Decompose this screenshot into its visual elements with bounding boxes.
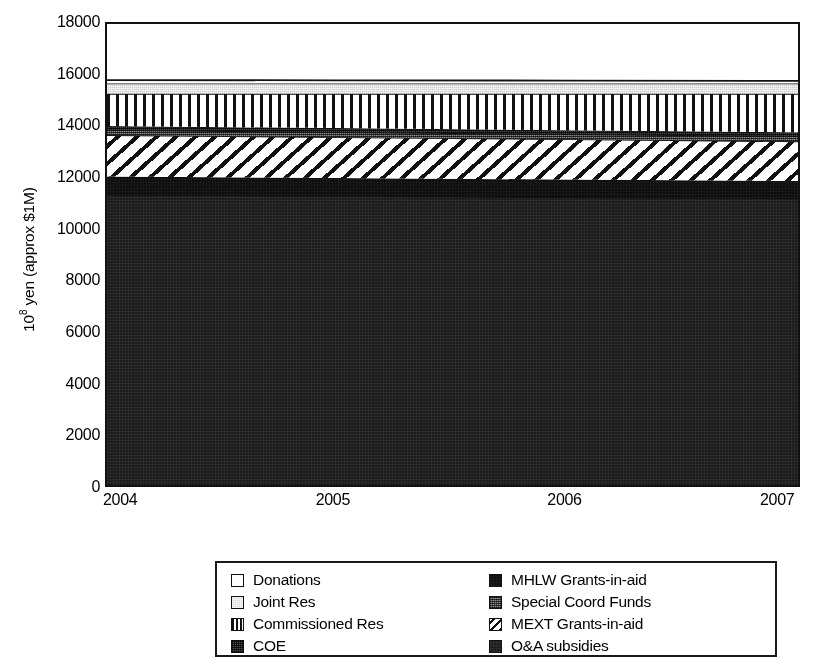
stacked-area-chart-figure: 108 yen (approx $1M) 0200040006000800010…: [0, 0, 815, 663]
x-axis-tick-label: 2005: [316, 492, 350, 508]
legend-item[interactable]: MHLW Grants-in-aid: [489, 569, 747, 591]
y-axis-tick-label: 6000: [26, 324, 100, 340]
legend-item[interactable]: MEXT Grants-in-aid: [489, 613, 747, 635]
plot-area: [105, 22, 800, 487]
legend-swatch-icon: [489, 596, 502, 609]
legend-swatch-icon: [231, 596, 244, 609]
y-axis-tick-label: 2000: [26, 427, 100, 443]
legend-item[interactable]: Special Coord Funds: [489, 591, 747, 613]
y-axis-tick-label: 18000: [26, 14, 100, 30]
legend-swatch-icon: [231, 618, 244, 631]
x-axis-tick-label: 2004: [103, 492, 137, 508]
legend-item-label: MEXT Grants-in-aid: [511, 616, 643, 632]
y-axis-tick-label: 14000: [26, 117, 100, 133]
legend-item[interactable]: Joint Res: [231, 591, 489, 613]
chart-legend: DonationsJoint ResCommissioned ResCOE MH…: [215, 561, 777, 657]
y-axis-tick-labels: 0200040006000800010000120001400016000180…: [22, 0, 100, 663]
y-axis-tick-label: 0: [26, 479, 100, 495]
legend-column-right: MHLW Grants-in-aidSpecial Coord FundsMEX…: [489, 569, 747, 657]
y-axis-tick-label: 4000: [26, 376, 100, 392]
legend-item-label: COE: [253, 638, 286, 654]
y-axis-tick-label: 10000: [26, 221, 100, 237]
legend-swatch-icon: [489, 618, 502, 631]
legend-swatch-icon: [489, 640, 502, 653]
legend-item[interactable]: Commissioned Res: [231, 613, 489, 635]
legend-item[interactable]: Donations: [231, 569, 489, 591]
y-axis-tick-label: 16000: [26, 66, 100, 82]
legend-item-label: O&A subsidies: [511, 638, 609, 654]
legend-column-left: DonationsJoint ResCommissioned ResCOE: [231, 569, 489, 657]
legend-item-label: Joint Res: [253, 594, 315, 610]
y-axis-tick-label: 12000: [26, 169, 100, 185]
legend-swatch-icon: [231, 640, 244, 653]
legend-item-label: MHLW Grants-in-aid: [511, 572, 647, 588]
legend-item-label: Commissioned Res: [253, 616, 383, 632]
legend-item[interactable]: O&A subsidies: [489, 635, 747, 657]
x-axis-tick-label: 2007: [760, 492, 794, 508]
legend-content: DonationsJoint ResCommissioned ResCOE MH…: [231, 569, 771, 657]
legend-swatch-icon: [231, 574, 244, 587]
legend-swatch-icon: [489, 574, 502, 587]
legend-item-label: Donations: [253, 572, 321, 588]
legend-item[interactable]: COE: [231, 635, 489, 657]
legend-item-label: Special Coord Funds: [511, 594, 651, 610]
y-axis-tick-label: 8000: [26, 272, 100, 288]
x-axis-tick-label: 2006: [547, 492, 581, 508]
